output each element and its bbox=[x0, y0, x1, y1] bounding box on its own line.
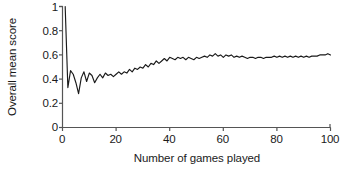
chart-figure: Overall mean score 1 0.8 0.6 0.4 0.2 0 0… bbox=[0, 0, 354, 178]
plot-area bbox=[0, 0, 354, 178]
data-series-line bbox=[65, 7, 330, 94]
axis-spines bbox=[59, 6, 331, 128]
